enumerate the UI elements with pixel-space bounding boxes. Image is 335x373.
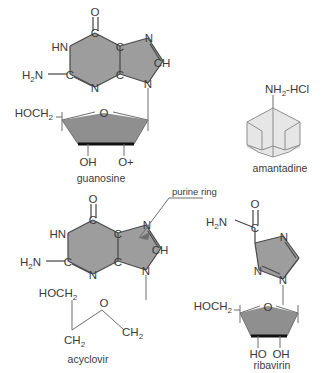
acyclovir-amino-label: H2N: [20, 256, 41, 271]
acyclovir-chain-ch2-left-label: CH2: [64, 334, 86, 349]
acyclovir-sidechain-bonds: [72, 300, 124, 330]
ribavirin-caption: ribavirin: [254, 359, 291, 371]
guanosine-n3-label: N: [91, 82, 99, 94]
amantadine-caption: amantadine: [253, 162, 308, 174]
guanosine-c8h-label: CH: [154, 57, 171, 69]
ribavirin-n-bottom-label: N: [279, 274, 287, 286]
acyclovir-n7-label: N: [143, 219, 151, 231]
figure-canvas: O C HN C N CH C N N C H2N HOCH2 O OH O+: [0, 0, 335, 373]
acyclovir-c4-label: C: [114, 256, 122, 268]
acyclovir-n3-label: N: [89, 269, 97, 281]
antiviral-structures-figure: O C HN C N CH C N N C H2N HOCH2 O OH O+: [0, 0, 335, 373]
acyclovir-c2-label: C: [64, 256, 72, 268]
acyclovir-chain-ch2-right-label: CH2: [122, 326, 144, 341]
ribavirin-amide-o-label: O: [251, 198, 260, 210]
guanosine-hn-label: HN: [51, 41, 68, 53]
structure-amantadine: NH2-HCl amantadine: [247, 83, 309, 174]
amantadine-amine-label: NH2-HCl: [265, 83, 309, 98]
guanosine-ring-o-label: O: [100, 107, 109, 119]
guanosine-c4-label: C: [116, 69, 124, 81]
acyclovir-c6-label: C: [89, 214, 97, 226]
purine-ring-label: purine ring: [172, 186, 217, 197]
acyclovir-c5-label: C: [114, 228, 122, 240]
ribavirin-ring-o-label: O: [264, 301, 273, 313]
guanosine-hydroxymethyl-label: HOCH2: [15, 107, 54, 122]
guanosine-c5-label: C: [116, 41, 124, 53]
guanosine-o-plus-label: O+: [118, 156, 134, 168]
ribavirin-amide-c-label: C: [251, 222, 259, 234]
ribavirin-n-left-label: N: [254, 265, 262, 277]
acyclovir-carbonyl-o-label: O: [89, 193, 98, 205]
guanosine-c2-label: C: [66, 69, 74, 81]
acyclovir-n9-label: N: [142, 265, 150, 277]
guanosine-carbonyl-o-label: O: [91, 6, 100, 18]
guanosine-n7-label: N: [145, 32, 153, 44]
guanosine-oh-label: OH: [79, 156, 96, 168]
ribavirin-hydroxymethyl-label: HOCH2: [194, 300, 233, 315]
ribavirin-n-top-label: N: [280, 231, 288, 243]
structure-acyclovir: O C HN C N CH C N N C H2N HOCH2 O CH2 CH…: [20, 193, 168, 365]
guanosine-c6-label: C: [91, 27, 99, 39]
purine-ring-arrow-line: [139, 198, 169, 238]
guanosine-amino-label: H2N: [22, 69, 43, 84]
acyclovir-hydroxymethyl-label: HOCH2: [39, 287, 78, 302]
acyclovir-hn-label: HN: [49, 228, 66, 240]
structure-ribavirin: O C H2N N N N HOCH2 O HO OH ribavirin: [194, 198, 299, 371]
structure-guanosine: O C HN C N CH C N N C H2N HOCH2 O OH O+: [15, 6, 171, 184]
ribavirin-amide-n-label: H2N: [206, 216, 227, 231]
acyclovir-chain-o-label: O: [100, 297, 109, 309]
acyclovir-caption: acyclovir: [68, 353, 109, 365]
guanosine-caption: guanosine: [77, 172, 126, 184]
guanosine-n9-label: N: [144, 78, 152, 90]
acyclovir-c8h-label: CH: [152, 244, 169, 256]
